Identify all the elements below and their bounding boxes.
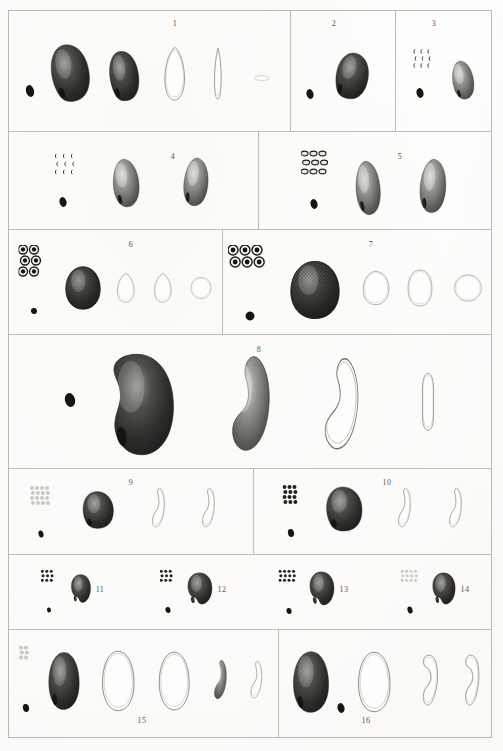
figure-number-label-8: 8 <box>257 345 261 354</box>
seed-section-outline-specimen <box>147 487 169 529</box>
seed-natural-size-marker <box>407 601 414 610</box>
figure-number-label-11: 11 <box>96 585 105 594</box>
seed-embryo-outline-specimen <box>418 371 438 433</box>
seed-magnification-cluster <box>160 570 177 587</box>
seed-magnification-cluster <box>401 570 422 587</box>
seed-natural-size-marker <box>306 86 315 98</box>
seed-transverse-outline-specimen <box>189 276 213 300</box>
seed-natural-size-marker <box>245 308 256 319</box>
seed-section-outline-specimen <box>315 355 365 453</box>
seed-magnification-cluster <box>19 646 33 665</box>
seed-reticulate-view-specimen <box>287 259 343 321</box>
seed-dorsal-view-large-specimen <box>102 350 178 458</box>
seed-natural-size-marker <box>64 392 76 408</box>
figure-number-label-5: 5 <box>398 152 402 161</box>
seed-natural-size-marker <box>30 301 38 309</box>
figure-number-label-12: 12 <box>218 585 227 594</box>
seed-magnification-cluster <box>283 485 302 509</box>
seed-dorsal-view-specimen <box>80 490 116 530</box>
seed-magnification-cluster <box>228 245 274 279</box>
seed-magnification-cluster <box>19 245 50 287</box>
seed-natural-size-marker <box>286 601 293 609</box>
seed-natural-size-marker <box>59 194 68 206</box>
seed-magnification-cluster <box>279 570 300 587</box>
seed-embryo-outline-specimen <box>246 660 266 700</box>
seed-dorsal-view-specimen <box>107 155 144 210</box>
seed-lateral-outline-specimen <box>155 649 193 713</box>
seed-magnification-cluster <box>411 49 437 75</box>
seed-lateral-view-specimen <box>104 47 143 104</box>
figure-number-label-3: 3 <box>432 19 436 28</box>
seed-natural-size-marker <box>38 525 45 534</box>
seed-dorsal-view-specimen <box>45 650 83 712</box>
figure-number-label-15: 15 <box>138 716 147 725</box>
seed-natural-size-marker <box>310 196 319 208</box>
seed-section-outline-specimen <box>114 272 138 304</box>
figure-number-label-13: 13 <box>340 585 349 594</box>
illustration-plate: 12345678910111213141516 <box>0 0 503 751</box>
seed-dorsal-view-specimen <box>307 570 337 608</box>
seed-embryo-outline-specimen <box>209 46 227 102</box>
seed-dorsal-view-specimen <box>351 158 386 218</box>
seed-embryo-outline-2-specimen <box>457 654 483 708</box>
seed-magnification-cluster <box>41 570 58 587</box>
seed-reticulate-view-specimen <box>63 265 103 311</box>
figure-number-label-14: 14 <box>461 585 470 594</box>
seed-section-outline-specimen <box>98 648 138 714</box>
seed-lateral-outline-specimen <box>197 487 219 529</box>
seed-natural-size-marker <box>46 600 52 607</box>
seed-magnification-cluster <box>53 154 82 183</box>
seed-dorsal-view-specimen <box>44 39 96 107</box>
seed-dorsal-view-specimen <box>289 649 333 715</box>
figure-panel-3 <box>395 10 492 131</box>
seed-section-outline-specimen <box>161 45 189 103</box>
seed-natural-size-marker <box>22 699 30 709</box>
seed-lateral-outline-specimen <box>405 268 435 308</box>
seed-natural-size-marker <box>416 85 425 97</box>
seed-natural-size-marker <box>165 600 172 608</box>
figure-number-label-1: 1 <box>173 19 177 28</box>
figure-number-label-2: 2 <box>332 19 336 28</box>
seed-natural-size-marker <box>287 524 295 534</box>
seed-transverse-outline-specimen <box>252 73 272 84</box>
seed-embryo-shaded-specimen <box>209 659 231 701</box>
seed-natural-size-marker <box>25 84 35 98</box>
seed-dorsal-view-specimen <box>185 571 215 607</box>
seed-lateral-outline-specimen <box>151 272 175 304</box>
figure-number-label-7: 7 <box>369 240 373 249</box>
seed-magnification-cluster <box>30 486 54 510</box>
figure-number-label-9: 9 <box>129 478 133 487</box>
seed-embryo-outline-specimen <box>414 654 442 708</box>
seed-magnification-cluster <box>301 150 335 184</box>
seed-section-shaded-specimen <box>222 354 276 454</box>
seed-lateral-view-specimen <box>416 156 451 216</box>
seed-section-outline-specimen <box>360 269 392 307</box>
seed-transverse-outline-specimen <box>452 273 484 303</box>
seed-dorsal-view-specimen <box>430 571 458 607</box>
seed-lateral-view-specimen <box>179 155 213 209</box>
figure-number-label-16: 16 <box>362 716 371 725</box>
seed-natural-size-marker <box>337 700 346 712</box>
seed-dorsal-view-specimen <box>69 573 93 605</box>
figure-number-label-4: 4 <box>171 152 175 161</box>
figure-number-label-10: 10 <box>383 478 392 487</box>
seed-lateral-outline-specimen <box>444 487 466 529</box>
seed-section-outline-specimen <box>393 487 415 529</box>
figure-number-label-6: 6 <box>129 240 133 249</box>
seed-dorsal-view-specimen <box>323 485 365 533</box>
seed-section-outline-specimen <box>354 649 394 715</box>
